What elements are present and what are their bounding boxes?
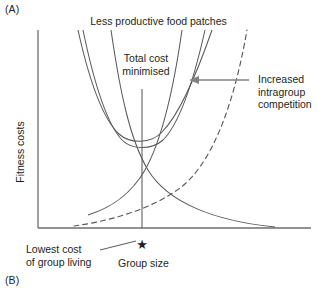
curve-increasing-cost [88,30,182,215]
optimum-group-size-star-icon: ★ [136,237,148,252]
curve-total-cost-baseline [83,30,205,148]
curve-increased-competition-dashed [74,30,247,226]
figure-panel-a: (A) Less productive food patches Fitness… [0,0,317,291]
curve-decreasing-cost [111,30,275,227]
panel-label-b: (B) [5,274,19,286]
leader-line-lowest-cost [100,241,136,250]
chart-plot-area: ★ [0,0,317,291]
curve-total-cost-increased [78,30,212,141]
